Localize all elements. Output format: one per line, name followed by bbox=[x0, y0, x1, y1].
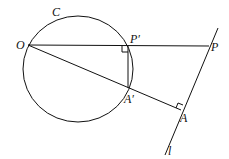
label-o: O bbox=[16, 39, 25, 51]
label-l: l bbox=[168, 145, 171, 157]
label-p: P bbox=[211, 41, 218, 53]
right-angle-mark-a bbox=[176, 103, 183, 108]
right-angle-mark-p-prime bbox=[122, 46, 128, 52]
label-a-prime: A′ bbox=[124, 93, 134, 105]
circle-c bbox=[23, 16, 133, 122]
diagram-canvas bbox=[0, 0, 229, 159]
segment-o-p bbox=[28, 45, 209, 46]
label-a: A bbox=[180, 112, 187, 124]
label-c: C bbox=[52, 6, 60, 18]
segment-o-a bbox=[28, 45, 181, 110]
label-p-prime: P′ bbox=[130, 33, 140, 45]
inversion-diagram: C O P′ P A′ A l bbox=[0, 0, 229, 159]
